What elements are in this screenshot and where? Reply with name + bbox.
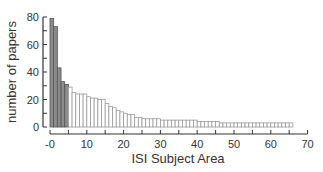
bar xyxy=(241,123,245,127)
x-tick-label: 70 xyxy=(301,138,313,150)
bar xyxy=(124,113,128,127)
bar xyxy=(252,123,256,127)
bar xyxy=(190,120,194,127)
bar xyxy=(274,123,278,127)
bar xyxy=(216,122,220,128)
bar xyxy=(50,18,54,127)
x-tick-label: 60 xyxy=(265,138,277,150)
x-axis-label: ISI Subject Area xyxy=(131,151,225,166)
bar xyxy=(171,120,175,127)
bar xyxy=(135,117,139,127)
y-tick-label: 40 xyxy=(27,66,39,78)
x-tick-label: 50 xyxy=(228,138,240,150)
bar xyxy=(201,122,205,128)
bar xyxy=(87,97,91,127)
bar xyxy=(271,123,275,127)
bar xyxy=(83,94,87,127)
bar xyxy=(182,120,186,127)
bar xyxy=(98,100,102,128)
y-tick-label: 0 xyxy=(33,121,39,133)
bar xyxy=(116,111,120,128)
bar xyxy=(197,122,201,128)
bar xyxy=(57,68,61,127)
bar xyxy=(127,115,131,127)
bar xyxy=(72,93,76,127)
y-tick-label: 20 xyxy=(27,94,39,106)
bar xyxy=(113,108,117,127)
bar xyxy=(208,122,212,128)
bar-chart: 020406080 -010203040506070 ISI Subject A… xyxy=(0,0,323,172)
bar xyxy=(120,112,124,127)
bar xyxy=(138,117,142,127)
bar xyxy=(230,123,234,127)
bar xyxy=(278,123,282,127)
x-tick-label: 40 xyxy=(191,138,203,150)
y-tick-label: 60 xyxy=(27,39,39,51)
bar xyxy=(212,122,216,128)
bar xyxy=(157,119,161,127)
bar xyxy=(260,123,264,127)
bar xyxy=(175,120,179,127)
bar xyxy=(234,123,238,127)
bar xyxy=(105,104,109,127)
bar xyxy=(146,119,150,127)
bar xyxy=(160,120,164,127)
bar xyxy=(205,122,209,128)
y-axis-label: number of papers xyxy=(4,21,19,123)
bar xyxy=(142,119,146,127)
bar xyxy=(267,123,271,127)
x-axis: -010203040506070 xyxy=(45,130,314,150)
bar xyxy=(263,123,267,127)
bar xyxy=(219,123,223,127)
x-tick-label: -0 xyxy=(45,138,55,150)
bar xyxy=(227,123,231,127)
y-axis: 020406080 xyxy=(27,11,47,133)
bar xyxy=(61,82,65,127)
bar xyxy=(289,123,293,127)
bar xyxy=(194,120,198,127)
bar xyxy=(94,98,98,127)
bar xyxy=(286,123,290,127)
bar xyxy=(249,123,253,127)
bar xyxy=(90,98,94,127)
bar xyxy=(131,115,135,127)
y-tick-label: 80 xyxy=(27,11,39,23)
bars-group xyxy=(50,18,293,127)
x-tick-label: 20 xyxy=(117,138,129,150)
bar xyxy=(223,123,227,127)
bar xyxy=(76,94,80,127)
bar xyxy=(79,94,83,127)
x-tick-label: 30 xyxy=(154,138,166,150)
bar xyxy=(68,87,72,127)
bar xyxy=(282,123,286,127)
bar xyxy=(186,120,190,127)
bar xyxy=(65,84,69,127)
bar xyxy=(238,123,242,127)
bar xyxy=(168,120,172,127)
bar xyxy=(149,119,153,127)
bar xyxy=(109,106,113,127)
bar xyxy=(54,27,58,127)
bar xyxy=(153,119,157,127)
bar xyxy=(179,120,183,127)
x-tick-label: 10 xyxy=(81,138,93,150)
bar xyxy=(256,123,260,127)
bar xyxy=(245,123,249,127)
bar xyxy=(164,120,168,127)
bar xyxy=(102,100,106,128)
